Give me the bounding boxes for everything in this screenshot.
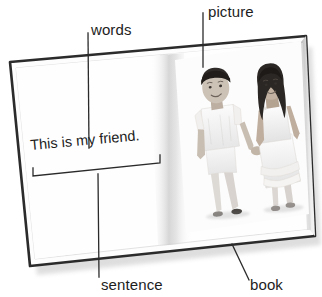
photo-children bbox=[172, 38, 314, 238]
figure-canvas: This is my friend. words picture sentenc… bbox=[0, 0, 322, 297]
